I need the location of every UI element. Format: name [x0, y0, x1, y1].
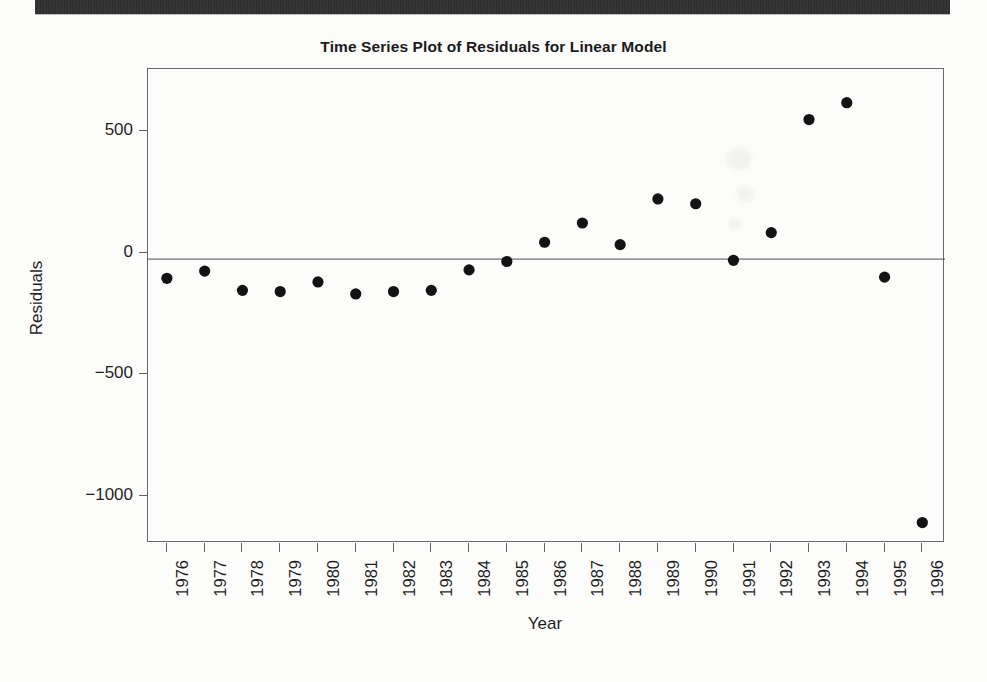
- x-tick-label-1977: 1977: [211, 560, 230, 597]
- x-tick-label-1990: 1990: [702, 560, 721, 597]
- x-tick-mark: [430, 543, 431, 552]
- x-tick-label-1985: 1985: [513, 560, 532, 597]
- data-point: [312, 276, 323, 287]
- x-tick-mark: [619, 543, 620, 552]
- data-point: [577, 217, 588, 228]
- x-tick-mark: [581, 543, 582, 552]
- data-point: [463, 264, 474, 275]
- x-tick-mark: [468, 543, 469, 552]
- data-point: [426, 285, 437, 296]
- x-tick-mark: [921, 543, 922, 552]
- data-point: [275, 286, 286, 297]
- data-point: [690, 198, 701, 209]
- data-point: [841, 97, 852, 108]
- x-tick-mark: [733, 543, 734, 552]
- y-tick-label-minus1000: −1000: [85, 485, 133, 505]
- x-tick-label-1996: 1996: [928, 560, 947, 597]
- data-point: [917, 517, 928, 528]
- x-tick-mark: [355, 543, 356, 552]
- chart-title: Time Series Plot of Residuals for Linear…: [0, 38, 987, 56]
- x-tick-mark: [544, 543, 545, 552]
- x-tick-mark: [166, 543, 167, 552]
- x-tick-label-1983: 1983: [437, 560, 456, 597]
- x-tick-label-1989: 1989: [664, 560, 683, 597]
- x-tick-label-1992: 1992: [777, 560, 796, 597]
- x-tick-label-1979: 1979: [286, 560, 305, 597]
- x-tick-mark: [695, 543, 696, 552]
- x-tick-mark: [657, 543, 658, 552]
- data-point: [199, 266, 210, 277]
- x-tick-label-1978: 1978: [248, 560, 267, 597]
- data-point: [237, 285, 248, 296]
- x-tick-label-1995: 1995: [891, 560, 910, 597]
- data-point: [879, 272, 890, 283]
- x-tick-label-1981: 1981: [362, 560, 381, 597]
- y-tick-label-minus500: −500: [95, 363, 133, 383]
- data-point: [539, 237, 550, 248]
- x-tick-label-1993: 1993: [815, 560, 834, 597]
- x-tick-label-1986: 1986: [551, 560, 570, 597]
- x-tick-mark: [770, 543, 771, 552]
- x-tick-mark: [204, 543, 205, 552]
- x-tick-mark: [846, 543, 847, 552]
- x-tick-label-1988: 1988: [626, 560, 645, 597]
- x-tick-label-1976: 1976: [173, 560, 192, 597]
- y-tick-mark: [139, 495, 147, 496]
- scan-artifact-bar: [35, 0, 950, 14]
- x-tick-label-1987: 1987: [588, 560, 607, 597]
- y-axis-tick-labels: 500 0 −500 −1000: [55, 0, 133, 682]
- x-tick-label-1980: 1980: [324, 560, 343, 597]
- plot-frame: [147, 68, 944, 542]
- x-axis-title: Year: [0, 614, 987, 634]
- y-tick-mark: [139, 130, 147, 131]
- data-point: [615, 239, 626, 250]
- data-point: [350, 288, 361, 299]
- y-tick-label-500: 500: [105, 120, 133, 140]
- x-tick-label-1991: 1991: [740, 560, 759, 597]
- data-point: [766, 227, 777, 238]
- data-point: [652, 193, 663, 204]
- x-tick-label-1984: 1984: [475, 560, 494, 597]
- x-tick-mark: [279, 543, 280, 552]
- y-tick-mark: [139, 252, 147, 253]
- data-point: [388, 286, 399, 297]
- x-tick-mark: [506, 543, 507, 552]
- data-point: [803, 114, 814, 125]
- x-tick-mark: [317, 543, 318, 552]
- data-point: [728, 255, 739, 266]
- x-tick-mark: [884, 543, 885, 552]
- scanned-page: Time Series Plot of Residuals for Linear…: [0, 0, 987, 682]
- x-tick-label-1982: 1982: [400, 560, 419, 597]
- plot-canvas: [148, 69, 945, 543]
- data-point: [501, 256, 512, 267]
- data-point: [161, 273, 172, 284]
- x-tick-mark: [393, 543, 394, 552]
- data-points-group: [161, 97, 928, 528]
- x-tick-label-1994: 1994: [853, 560, 872, 597]
- x-tick-mark: [808, 543, 809, 552]
- y-axis-title: Residuals: [27, 238, 47, 358]
- y-tick-mark: [139, 373, 147, 374]
- y-tick-label-0: 0: [124, 242, 133, 262]
- x-tick-mark: [241, 543, 242, 552]
